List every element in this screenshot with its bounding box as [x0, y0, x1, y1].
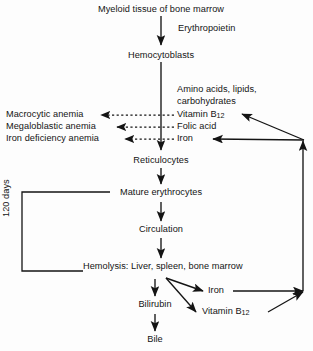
- node-reticulocytes: Reticulocytes: [133, 155, 188, 166]
- node-mature-erythrocytes: Mature erythrocytes: [120, 187, 202, 198]
- node-macrocytic-anemia: Macrocytic anemia: [6, 109, 83, 120]
- node-folic-acid-input: Folic acid: [177, 121, 216, 132]
- recycle-vitaminb12-to-riser: [268, 292, 303, 312]
- node-hemocytoblasts: Hemocytoblasts: [128, 50, 194, 61]
- recycle-to-iron-input: [213, 139, 304, 140]
- node-vitamin-b12-recycled: Vitamin B12: [202, 306, 250, 318]
- node-vitamin-b12-recycled-text: Vitamin B: [202, 306, 242, 316]
- node-vitamin-b12-input-text: Vitamin B: [177, 109, 217, 119]
- node-bilirubin: Bilirubin: [138, 299, 171, 310]
- node-iron-input: Iron: [177, 133, 193, 144]
- node-megaloblastic-anemia: Megaloblastic anemia: [6, 121, 96, 132]
- node-vitamin-b12-input: Vitamin B12: [177, 109, 225, 121]
- node-myeloid-tissue: Myeloid tissue of bone marrow: [98, 4, 224, 15]
- node-amino-acids-line1: Amino acids, lipids,: [177, 84, 257, 95]
- node-circulation: Circulation: [139, 224, 183, 235]
- recycle-to-vitaminb12-input: [242, 114, 304, 140]
- label-120-days: 120 days: [1, 179, 12, 217]
- node-hemolysis: Hemolysis: Liver, spleen, bone marrow: [83, 261, 243, 272]
- node-vitamin-b12-recycled-subscript: 12: [242, 308, 250, 317]
- node-vitamin-b12-input-subscript: 12: [217, 111, 225, 120]
- node-iron-recycled: Iron: [208, 285, 224, 296]
- node-erythropoietin: Erythropoietin: [178, 23, 235, 34]
- diagram-canvas: Myeloid tissue of bone marrow Erythropoi…: [0, 0, 313, 351]
- node-bile: Bile: [147, 334, 163, 345]
- node-amino-acids-line2: carbohydrates: [177, 96, 236, 107]
- node-iron-deficiency-anemia: Iron deficiency anemia: [6, 133, 99, 144]
- bracket-120-days: [22, 192, 110, 271]
